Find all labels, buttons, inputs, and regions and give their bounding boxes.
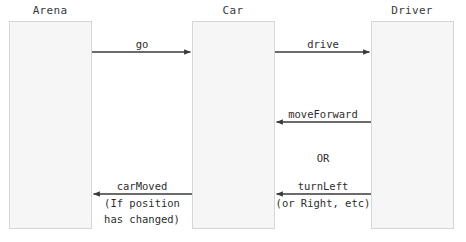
message-label-carmoved: carMoved (92, 180, 192, 192)
message-label-turnleft: turnLeft (273, 180, 373, 192)
message-label-drive: drive (273, 38, 373, 50)
or-separator-label: OR (273, 152, 373, 164)
message-sublabel-carmoved-line1: (If position (88, 197, 196, 209)
message-sublabel-carmoved-line2: has changed) (88, 213, 196, 225)
message-label-go: go (92, 38, 192, 50)
message-arrows (0, 0, 466, 242)
message-sublabel-turnleft: (or Right, etc) (265, 197, 381, 209)
sequence-diagram: Arena Car Driver go drive moveForward OR… (0, 0, 466, 242)
message-label-moveforward: moveForward (263, 108, 383, 120)
